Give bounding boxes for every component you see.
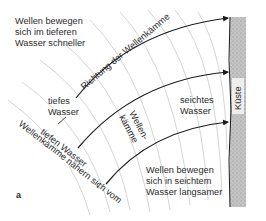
svg-text:Wasser schneller: Wasser schneller	[15, 38, 85, 48]
svg-text:Wellen bewegen: Wellen bewegen	[146, 165, 214, 175]
svg-text:Wellen bewegen: Wellen bewegen	[15, 16, 83, 26]
panel-letter: a	[16, 190, 22, 200]
svg-text:sich in seichtem: sich in seichtem	[146, 176, 212, 186]
label-deep-water: tiefes Wasser	[48, 96, 79, 124]
direction-label: Richtung der Wellenkämme	[79, 11, 172, 91]
svg-text:sich im tieferen: sich im tieferen	[15, 27, 77, 37]
svg-text:Wasser: Wasser	[48, 107, 79, 117]
coast-label: Küste	[233, 87, 243, 111]
label-shallow-slow: Wellen bewegen sich in seichtem Wasser l…	[146, 165, 222, 197]
label-shallow-water: seichtes Wasser	[180, 95, 214, 116]
label-crests: Wellen- kämme	[117, 109, 150, 144]
svg-text:Wasser: Wasser	[180, 106, 211, 116]
svg-text:Wasser langsamer: Wasser langsamer	[146, 187, 222, 197]
coast: Küste	[229, 17, 246, 207]
crest-line	[198, 12, 227, 150]
svg-text:seichtes: seichtes	[180, 95, 214, 105]
svg-text:Wellenkämme nähern sich vom: Wellenkämme nähern sich vom	[17, 119, 124, 206]
svg-text:tiefes: tiefes	[48, 96, 70, 106]
label-deep-fast: Wellen bewegen sich im tieferen Wasser s…	[15, 16, 85, 48]
wave-refraction-diagram: Küste Wellen bewegen sich im tieferen Wa…	[0, 0, 266, 221]
label-approach: Wellenkämme nähern sich vom tiefen Wasse…	[17, 119, 124, 206]
